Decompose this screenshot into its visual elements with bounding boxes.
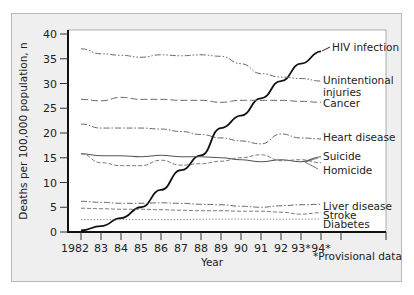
x-tick-label: 93*: [291, 242, 311, 255]
legend-suicide: Suicide: [323, 150, 361, 162]
x-tick-label: 87: [174, 242, 188, 255]
legend-homicide: Homicide: [323, 164, 372, 176]
y-axis-title: Deaths per 100,000 population, n: [17, 42, 29, 219]
x-axis-title: Year: [200, 256, 224, 268]
x-tick-label: 1982: [61, 242, 89, 255]
y-tick-label: 0: [50, 226, 57, 239]
line-chart: 0510152025303540 19828384858687888990919…: [0, 0, 414, 295]
x-tick-label: 84: [114, 242, 128, 255]
x-tick-label: 86: [154, 242, 168, 255]
x-tick-label: 92: [274, 242, 288, 255]
legend-cancer: Cancer: [323, 97, 361, 109]
legend-unintentional-injuries-line1: Unintentional: [323, 74, 394, 86]
provisional-footnote: *Provisional data: [313, 250, 402, 262]
x-tick-label: 85: [134, 242, 148, 255]
y-tick-label: 20: [43, 127, 57, 140]
legend-diabetes: Diabetes: [323, 218, 370, 230]
x-tick-label: 90: [234, 242, 248, 255]
y-tick-label: 35: [43, 53, 57, 66]
x-tick-label: 83: [94, 242, 108, 255]
legend-hiv: HIV infection: [332, 41, 399, 53]
y-tick-label: 15: [43, 152, 57, 165]
y-tick-label: 5: [50, 201, 57, 214]
y-tick-label: 30: [43, 78, 57, 91]
legend-heart-disease: Heart disease: [323, 131, 395, 143]
y-tick-label: 40: [43, 28, 57, 41]
x-tick-label: 91: [254, 242, 268, 255]
x-tick-label: 89: [214, 242, 228, 255]
y-tick-label: 25: [43, 102, 57, 115]
x-tick-label: 88: [194, 242, 208, 255]
y-tick-label: 10: [43, 177, 57, 190]
y-ticks: 0510152025303540: [43, 28, 68, 239]
